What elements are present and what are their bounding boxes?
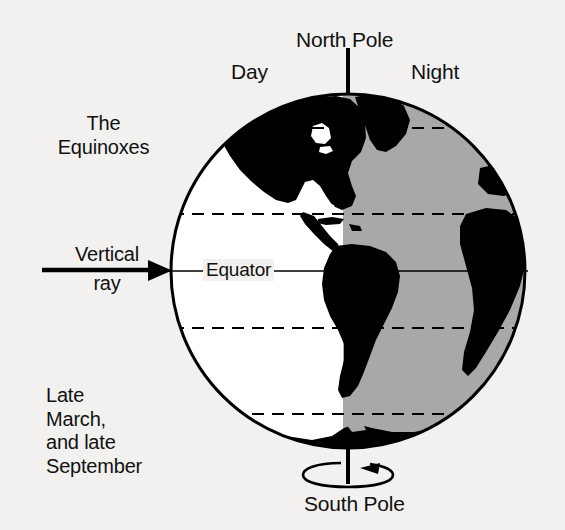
equinox-diagram: North Pole Day Night The Equinoxes Verti…	[0, 0, 565, 530]
europe-shape	[478, 120, 526, 160]
alaska-specks	[224, 113, 241, 122]
vertical-ray-label-top: Vertical	[62, 243, 152, 267]
dates-label: Late March, and late September	[46, 384, 142, 478]
equator-label: Equator	[203, 259, 274, 281]
south-pole-label: South Pole	[304, 492, 405, 517]
vertical-ray-label-bottom: ray	[62, 272, 152, 296]
day-label: Day	[231, 60, 268, 85]
night-label: Night	[411, 60, 459, 85]
equinoxes-label: The Equinoxes	[46, 112, 161, 159]
north-pole-label: North Pole	[296, 28, 393, 53]
